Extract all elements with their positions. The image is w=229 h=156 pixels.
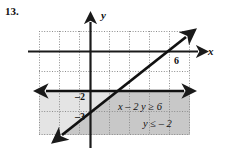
- inequality-label-2: y ≤ – 2: [142, 118, 173, 129]
- tick-label-x-6: 6: [174, 55, 179, 66]
- tick-label-y-minus3: –3: [74, 111, 85, 122]
- inequality-graph-figure: 13.: [0, 0, 229, 156]
- tick-label-y-minus2: –2: [74, 91, 85, 102]
- graph-canvas: y x 6 –2 –3 x – 2 y ≥ 6 y ≤ – 2: [0, 0, 229, 156]
- x-axis-label: x: [207, 45, 214, 57]
- y-axis-label: y: [99, 9, 106, 21]
- inequality-label-1: x – 2 y ≥ 6: [117, 101, 163, 112]
